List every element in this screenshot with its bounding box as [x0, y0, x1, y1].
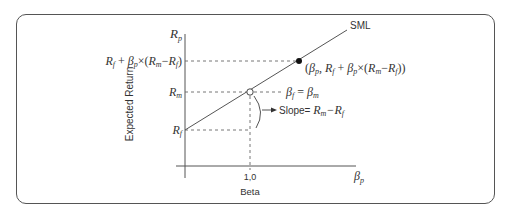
- slope-label: Slope= Rm−Rf: [279, 103, 346, 118]
- x-axis-label: Beta: [240, 186, 260, 197]
- market-point-label: βf = βm: [285, 85, 319, 100]
- portfolio-point-label: (βp, Rf + βp×(Rm−Rf)): [305, 61, 406, 76]
- y-tick-rf: Rf: [171, 123, 183, 138]
- y-tick-rm: Rm: [168, 85, 182, 100]
- slope-brace: [254, 96, 261, 128]
- sml-label: SML: [350, 20, 371, 31]
- x-tick-1: 1,0: [244, 172, 257, 182]
- arrow-icon: [262, 108, 277, 113]
- y-axis-label: Expected Return: [124, 67, 135, 142]
- portfolio-point-marker: [296, 58, 302, 64]
- sml-diagram: SML Rp Rf + βp×(Rm−Rf) Rm Rf Expected Re…: [0, 0, 509, 216]
- y-tick-portfolio: Rf + βp×(Rm−Rf): [104, 54, 182, 69]
- y-axis-symbol: Rp: [169, 26, 182, 43]
- market-point-marker: [247, 89, 253, 95]
- x-axis-symbol: βp: [353, 169, 364, 185]
